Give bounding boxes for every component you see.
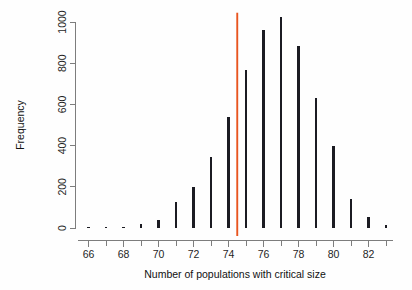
y-tick-label: 800 <box>56 54 68 72</box>
x-tick-label: 78 <box>293 248 305 260</box>
y-axis-title: Frequency <box>14 99 26 149</box>
x-tick-label: 80 <box>328 248 340 260</box>
x-tick-label: 76 <box>258 248 270 260</box>
y-tick-label: 600 <box>56 95 68 113</box>
y-tick-label: 200 <box>56 178 68 196</box>
y-tick-label: 1000 <box>56 10 68 34</box>
x-tick-label: 66 <box>83 248 95 260</box>
histogram-figure: 02004006008001000 Frequency 666870727476… <box>0 0 412 290</box>
x-axis-title: Number of populations with critical size <box>144 268 326 280</box>
x-tick-label: 68 <box>118 248 130 260</box>
y-tick-label: 400 <box>56 137 68 155</box>
x-tick-label: 74 <box>223 248 235 260</box>
y-tick-label: 0 <box>56 225 68 231</box>
x-tick-label: 72 <box>188 248 200 260</box>
x-tick-label: 82 <box>363 248 375 260</box>
frequency-histogram-chart: 02004006008001000 Frequency 666870727476… <box>0 0 412 290</box>
x-tick-label: 70 <box>153 248 165 260</box>
